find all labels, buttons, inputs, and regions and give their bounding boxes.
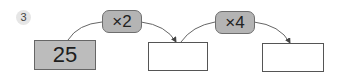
arc-start-to-op1	[68, 22, 102, 40]
arc-op2-to-box2	[254, 22, 290, 43]
arc-box1-to-op2	[181, 22, 215, 42]
answer-box-1[interactable]	[148, 42, 208, 71]
multiply-by-4-operator: ×4	[215, 11, 255, 34]
start-value: 25	[35, 41, 95, 68]
start-value-box: 25	[34, 40, 96, 70]
multiply-by-2-operator: ×2	[102, 10, 142, 33]
answer-box-2[interactable]	[262, 43, 324, 72]
arc-op1-to-box1	[141, 22, 176, 42]
